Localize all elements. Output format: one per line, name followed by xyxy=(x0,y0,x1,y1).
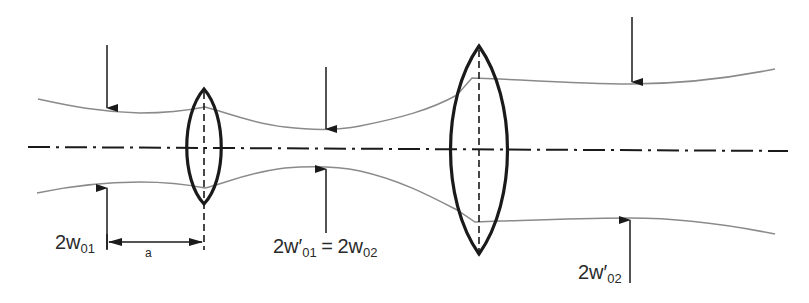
distance-a-label: a xyxy=(145,247,152,259)
beam-envelope-lower xyxy=(37,167,775,234)
waist-mid-left-main: 2w′ xyxy=(273,235,302,257)
waist-1-label-main: 2w xyxy=(55,231,81,253)
waist-mid-right-main: 2w xyxy=(337,235,363,257)
waist-2-label: 2w′02 xyxy=(578,262,622,285)
optical-axis xyxy=(28,147,788,151)
waist-2-label-main: 2w′ xyxy=(578,261,607,283)
distance-a-text: a xyxy=(145,246,152,260)
waist-mid-left-sub: 01 xyxy=(302,245,316,260)
waist-1-label: 2w01 xyxy=(55,232,95,255)
waist-1-label-sub: 01 xyxy=(81,241,95,256)
waist-mid-label: 2w′01 = 2w02 xyxy=(273,236,377,259)
waist-mid-right-sub: 02 xyxy=(363,245,377,260)
waist-mid-equals: = xyxy=(321,235,333,257)
waist-2-label-sub: 02 xyxy=(607,271,621,286)
optical-diagram xyxy=(0,0,809,303)
beam-envelope-upper xyxy=(38,69,775,130)
